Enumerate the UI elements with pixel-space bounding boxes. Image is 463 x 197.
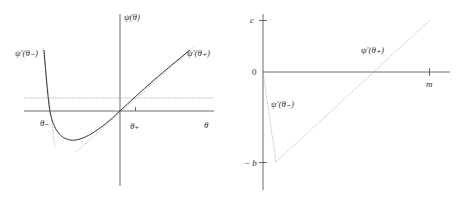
left-panel: ψ(θ) θ θ₋ θ₊ ψ′(θ₋) ψ′(θ₊)	[15, 12, 214, 186]
theta-axis-label: θ	[204, 120, 209, 130]
minus-b-label: − b	[244, 158, 257, 168]
figure-canvas: ψ(θ) θ θ₋ θ₊ ψ′(θ₋) ψ′(θ₊) c 0 − b m ψ′(…	[0, 0, 463, 197]
c-label: c	[250, 15, 254, 25]
tangent-left-label: ψ′(θ₋)	[15, 48, 38, 58]
right-panel: c 0 − b m ψ′(θ₊) ψ′(θ₋)	[244, 14, 450, 190]
m-label: m	[426, 79, 433, 89]
piecewise-linear-path	[263, 20, 430, 162]
zero-label: 0	[252, 67, 257, 77]
psi-curve	[44, 50, 190, 140]
segment-lower-label: ψ′(θ₋)	[271, 99, 294, 109]
theta-plus-label: θ₊	[130, 121, 139, 131]
psi-axis-label: ψ(θ)	[124, 12, 140, 22]
tangent-right-label: ψ′(θ₊)	[187, 48, 210, 58]
theta-minus-label: θ₋	[40, 118, 49, 128]
segment-upper-label: ψ′(θ₊)	[361, 45, 384, 55]
tangent-right-line	[76, 45, 196, 152]
